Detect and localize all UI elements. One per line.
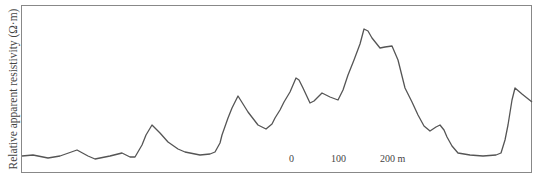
y-axis-label: Relative apparent resistivity (Ω·m) bbox=[1, 5, 25, 173]
scale-label-200m: 200 m bbox=[380, 153, 405, 164]
plot-frame bbox=[22, 6, 532, 173]
resistivity-curve bbox=[22, 29, 532, 159]
scale-label-100: 100 bbox=[331, 153, 346, 164]
scale-label-0: 0 bbox=[289, 153, 294, 164]
resistivity-chart bbox=[0, 0, 537, 182]
